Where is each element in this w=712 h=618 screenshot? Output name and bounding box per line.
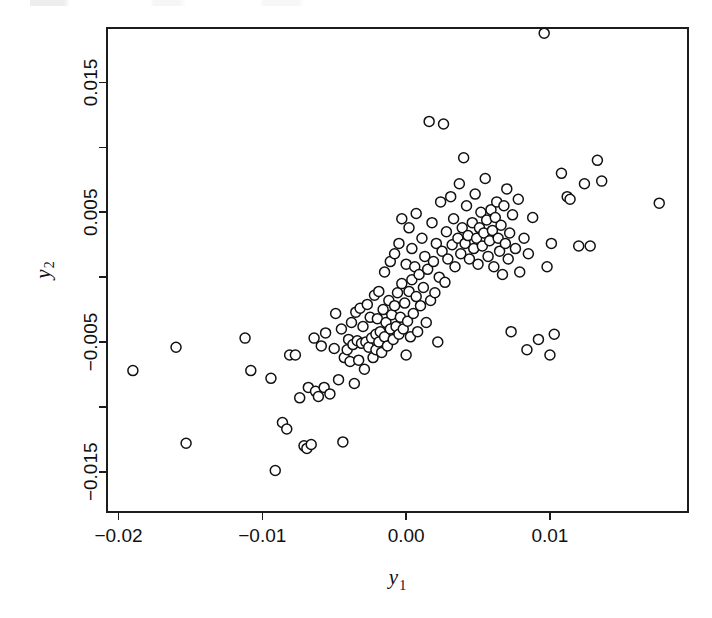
data-point (282, 424, 292, 434)
data-point (497, 270, 507, 280)
y-axis-title: y2 (31, 261, 57, 280)
data-point (513, 194, 523, 204)
data-point (533, 334, 543, 344)
plot-border (107, 28, 688, 512)
data-point (128, 366, 138, 376)
data-point (597, 176, 607, 186)
x-tick-label-0: −0.02 (94, 525, 142, 546)
data-point (499, 201, 509, 211)
data-point (359, 364, 369, 374)
x-axis-title-subscript: 1 (399, 578, 406, 593)
data-point (539, 28, 549, 38)
data-point (334, 375, 344, 385)
data-point (416, 301, 426, 311)
data-point (338, 437, 348, 447)
data-point (417, 233, 427, 243)
data-point (519, 233, 529, 243)
data-point (506, 327, 516, 337)
data-point (574, 241, 584, 251)
data-point (321, 328, 331, 338)
y-tick-label-6: −0.015 (81, 442, 102, 501)
y-tick-label-0: 0.015 (81, 59, 102, 107)
data-point (500, 238, 510, 248)
data-point (329, 344, 339, 354)
data-point (505, 228, 515, 238)
data-points (128, 28, 664, 475)
data-point (349, 379, 359, 389)
data-point (407, 244, 417, 254)
data-point (428, 257, 438, 267)
data-point (246, 366, 256, 376)
axis-titles: y1y2 (31, 261, 406, 593)
data-point (546, 238, 556, 248)
scatter-plot-figure: −0.02−0.010.000.01 0.0150.005−0.005−0.01… (0, 0, 712, 618)
data-point (306, 440, 316, 450)
data-point (433, 337, 443, 347)
data-point (459, 153, 469, 163)
y-tick-label-2: 0.005 (81, 188, 102, 236)
data-point (397, 214, 407, 224)
data-point (439, 119, 449, 129)
data-point (585, 241, 595, 251)
data-point (440, 277, 450, 287)
x-tick-label-1: −0.01 (238, 525, 286, 546)
data-point (411, 209, 421, 219)
data-point (354, 355, 364, 365)
y-axis-title-subscript: 2 (42, 261, 57, 268)
data-point (424, 116, 434, 126)
data-point (358, 321, 368, 331)
plot-frame (107, 28, 688, 512)
data-point (545, 350, 555, 360)
data-point (295, 393, 305, 403)
data-point (483, 251, 493, 261)
data-point (316, 341, 326, 351)
data-point (240, 333, 250, 343)
data-point (522, 345, 532, 355)
x-axis-tick-labels: −0.02−0.010.000.01 (94, 525, 568, 546)
x-tick-label-3: 0.01 (531, 525, 568, 546)
data-point (380, 267, 390, 277)
data-point (400, 298, 410, 308)
data-point (331, 308, 341, 318)
scatter-plot-canvas: −0.02−0.010.000.01 0.0150.005−0.005−0.01… (0, 0, 712, 618)
x-axis-title: y1 (387, 565, 406, 593)
data-point (290, 350, 300, 360)
data-point (462, 201, 472, 211)
data-point (427, 218, 437, 228)
data-point (346, 318, 356, 328)
data-point (394, 238, 404, 248)
data-point (441, 227, 451, 237)
data-point (266, 373, 276, 383)
data-point (404, 223, 414, 233)
data-point (510, 244, 520, 254)
data-point (489, 262, 499, 272)
data-point (508, 210, 518, 220)
data-point (418, 283, 428, 293)
data-point (430, 288, 440, 298)
data-point (181, 438, 191, 448)
data-point (336, 324, 346, 334)
data-point (270, 465, 280, 475)
data-point (325, 389, 335, 399)
data-point (454, 179, 464, 189)
y-axis-tick-labels: 0.0150.005−0.005−0.015 (81, 59, 102, 501)
data-point (565, 194, 575, 204)
data-point (496, 220, 506, 230)
data-point (470, 189, 480, 199)
data-point (549, 329, 559, 339)
data-point (374, 286, 384, 296)
data-point (654, 198, 664, 208)
data-point (579, 179, 589, 189)
data-point (413, 327, 423, 337)
data-point (592, 155, 602, 165)
data-point (450, 262, 460, 272)
data-point (421, 318, 431, 328)
data-point (556, 168, 566, 178)
axis-ticks (99, 82, 550, 520)
x-tick-label-2: 0.00 (388, 525, 425, 546)
data-point (523, 249, 533, 259)
data-point (171, 342, 181, 352)
data-point (473, 259, 483, 269)
data-point (449, 214, 459, 224)
data-point (446, 192, 456, 202)
